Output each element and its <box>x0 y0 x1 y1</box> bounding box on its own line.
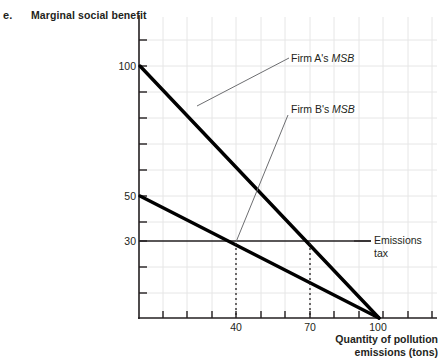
series-line-firm-b-msb <box>140 196 379 318</box>
x-axis-title: Quantity of pollution emissions (tons) <box>334 333 438 358</box>
series-label-firm-b-msb: Firm B's MSB <box>291 103 355 115</box>
series-label-firm-b-msb-italic: MSB <box>332 103 355 115</box>
series-label-firm-b-text: Firm B's <box>291 103 332 115</box>
chart-figure: e. Marginal social benefit <box>0 0 438 363</box>
y-tick-label-100: 100 <box>106 60 136 72</box>
callout-leader-firm-b <box>236 115 288 242</box>
series-label-firm-a-msb-italic: MSB <box>332 52 355 64</box>
y-axis <box>139 15 147 319</box>
x-axis-title-line2: emissions (tons) <box>334 346 438 359</box>
x-tick-label-70: 70 <box>290 321 330 333</box>
callout-leader-firm-a <box>197 58 289 106</box>
x-tick-label-100: 100 <box>358 321 398 333</box>
chart-canvas <box>0 0 438 363</box>
x-axis <box>138 311 437 318</box>
x-axis-title-line1: Quantity of pollution <box>334 333 438 346</box>
y-tick-label-30: 30 <box>106 235 136 247</box>
emissions-tax-line1: Emissions <box>374 234 422 247</box>
series-label-emissions-tax: Emissions tax <box>374 234 422 259</box>
y-tick-label-50: 50 <box>106 190 136 202</box>
series-label-firm-a-msb: Firm A's MSB <box>291 52 354 64</box>
x-tick-label-40: 40 <box>216 321 256 333</box>
series-label-firm-a-text: Firm A's <box>291 52 332 64</box>
emissions-tax-line2: tax <box>374 247 422 260</box>
